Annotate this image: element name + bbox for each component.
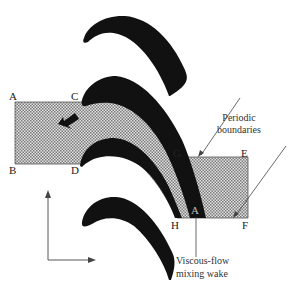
- label-D: D: [71, 164, 79, 176]
- x-axis-arrowhead: [88, 257, 96, 263]
- label-A: A: [9, 90, 17, 102]
- label-H: H: [171, 219, 179, 231]
- label-wake-A: A: [191, 204, 199, 216]
- label-B: B: [9, 164, 16, 176]
- blade-bottom: [82, 197, 175, 280]
- label-F: F: [242, 219, 248, 231]
- y-axis-arrowhead: [45, 190, 51, 198]
- label-E: E: [241, 147, 248, 159]
- coordinate-axes: [48, 196, 90, 260]
- label-C: C: [71, 90, 78, 102]
- periodic-label-line1: Periodic: [222, 112, 256, 123]
- periodic-arrowhead-1: [198, 150, 204, 157]
- label-G: G: [173, 147, 181, 159]
- wake-label-line1: Viscous-flow: [176, 255, 230, 266]
- periodic-label-line2: boundaries: [217, 124, 261, 135]
- wake-label-line2: mixing wake: [176, 268, 228, 279]
- cascade-diagram: A B C D G E H F A Periodic boundaries Vi…: [0, 0, 294, 288]
